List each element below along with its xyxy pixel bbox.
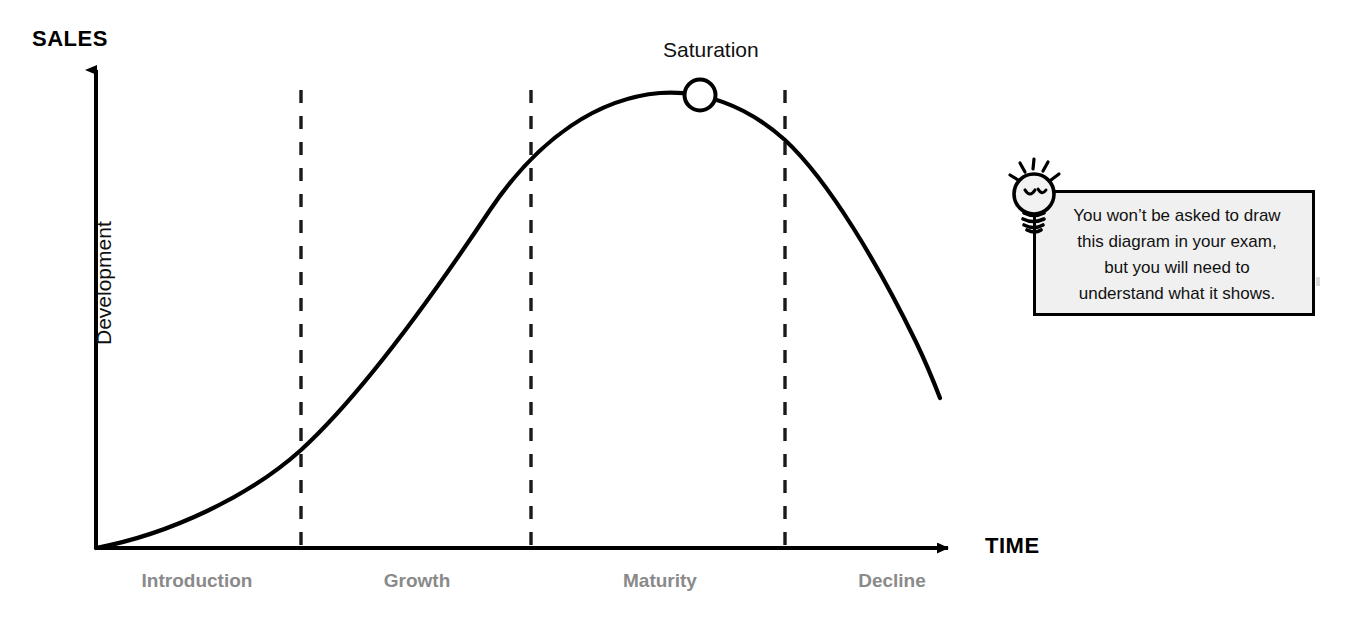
y-axis-label-development: Development xyxy=(92,221,116,345)
stage-label-maturity: Maturity xyxy=(623,570,697,592)
saturation-marker xyxy=(685,80,716,111)
stage-label-introduction: Introduction xyxy=(142,570,253,592)
stage-label-decline: Decline xyxy=(858,570,926,592)
scan-artifact xyxy=(1316,277,1320,286)
exam-tip-callout-text: You won’t be asked to draw this diagram … xyxy=(1036,203,1318,307)
life-cycle-curve xyxy=(96,93,940,548)
product-life-cycle-diagram: SALES TIME Development Saturation Introd… xyxy=(0,0,1352,630)
y-axis-title: SALES xyxy=(32,26,108,52)
lightbulb-icon xyxy=(1000,155,1076,235)
stage-label-growth: Growth xyxy=(384,570,451,592)
saturation-label: Saturation xyxy=(663,38,759,62)
x-axis-title: TIME xyxy=(985,533,1040,559)
